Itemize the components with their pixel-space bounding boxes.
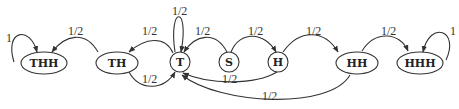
node-hh: HH: [336, 52, 378, 74]
edge-label-hh-hhh: 1/2: [381, 24, 396, 38]
nodes: THH TH T S H HH HHH: [21, 52, 443, 74]
edge-s-h: [231, 36, 276, 52]
node-label-thh: THH: [30, 57, 59, 70]
node-label-h: H: [273, 56, 283, 69]
node-label-s: S: [225, 56, 233, 69]
node-label-hhh: HHH: [404, 57, 435, 70]
node-label-hh: HH: [347, 57, 368, 70]
node-label-t: T: [176, 56, 185, 69]
node-thh: THH: [21, 52, 67, 74]
edge-label-s-t: 1/2: [195, 24, 210, 38]
edge-label-th-t: 1/2: [142, 72, 157, 86]
edge-label-s-h: 1/2: [248, 24, 263, 38]
state-diagram: 1 1/2 1/2 1/2 1/2 1/2 1/2 1/2 1/2 1/2 1/…: [0, 0, 459, 109]
edge-label-t-th: 1/2: [142, 24, 157, 38]
edge-label-h-t: 1/2: [222, 72, 237, 86]
edge-s-t: [184, 37, 227, 52]
edge-label-th-thh: 1/2: [68, 24, 83, 38]
node-label-th: TH: [108, 57, 127, 70]
edge-label-thh-self: 1: [6, 31, 12, 45]
node-hhh: HHH: [397, 52, 443, 74]
node-h: H: [268, 52, 288, 72]
node-s: S: [219, 52, 239, 72]
node-th: TH: [96, 52, 138, 74]
edge-label-t-self: 1/2: [172, 4, 187, 18]
edge-t-self: [174, 17, 184, 52]
edge-hh-hhh: [362, 36, 408, 51]
edge-th-thh: [52, 37, 98, 52]
edge-label-hh-t: 1/2: [262, 89, 277, 103]
edge-t-th: [129, 40, 173, 53]
edge-label-hhh-self: 1: [450, 24, 456, 38]
edge-label-h-hh: 1/2: [306, 24, 321, 38]
node-t: T: [170, 52, 190, 72]
